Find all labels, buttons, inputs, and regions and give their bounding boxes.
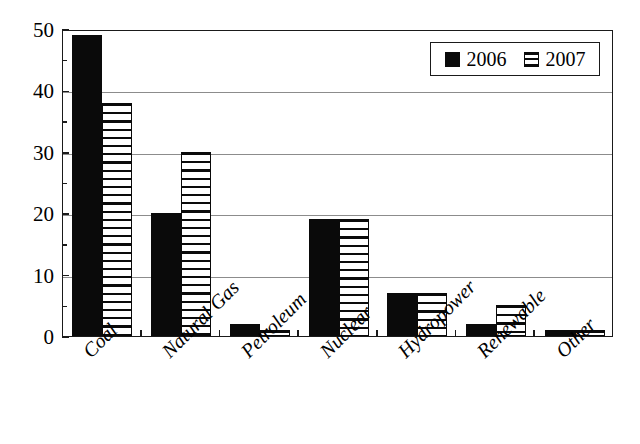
x-tick [376,330,378,337]
x-label-hydropower: Hydropower [394,276,479,361]
x-tick [533,330,535,337]
x-label-coal: Coal [79,319,121,361]
legend-item-2007: 2007 [524,49,586,69]
x-label-renewable: Renewable [473,285,549,361]
x-label-natural-gas: Natural Gas [158,277,242,361]
legend-label-2006: 2006 [467,49,507,69]
x-tick [140,330,142,337]
legend: 2006 2007 [430,42,600,76]
solid-swatch-icon [445,52,460,67]
legend-label-2007: 2007 [546,49,586,69]
x-label-petroleum: Petroleum [237,289,310,362]
x-label-nuclear: Nuclear [316,301,376,361]
x-label-other: Other [552,314,599,361]
x-tick [455,330,457,337]
legend-item-2006: 2006 [445,49,507,69]
bar-chart: 01020304050 CoalNatural GasPetroleumNucl… [0,0,640,444]
hatched-swatch-icon [524,52,539,67]
x-tick [297,330,299,337]
x-tick [219,330,221,337]
